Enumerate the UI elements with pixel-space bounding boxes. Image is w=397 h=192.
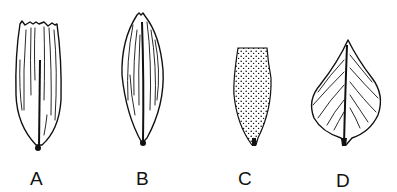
seed-b	[122, 13, 163, 146]
seed-figure: A B C	[0, 0, 397, 192]
label-b: B	[136, 168, 149, 189]
label-a: A	[30, 168, 43, 189]
seed-c	[234, 48, 271, 146]
seed-b-base	[140, 140, 146, 146]
seed-a	[16, 21, 61, 151]
label-c: C	[238, 168, 252, 189]
figure-canvas: A B C	[0, 0, 397, 192]
seed-d	[312, 40, 381, 146]
seed-a-base	[35, 145, 41, 151]
label-d: D	[336, 170, 350, 191]
